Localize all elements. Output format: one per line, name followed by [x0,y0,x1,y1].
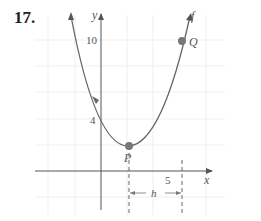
y-tick-10: 10 [86,34,98,46]
y-axis-label: y [91,8,98,22]
point-Q [178,37,186,45]
point-Q-label: Q [189,35,198,49]
point-P [125,142,133,150]
curve-arrow-left-icon [68,12,74,20]
point-P-label: P [123,151,132,165]
y-intercept-label: 4 [90,114,96,126]
parabola-graph: y x f 10 4 5 P Q h [0,0,261,221]
function-label: f [191,9,196,23]
x-tick-5: 5 [165,174,171,186]
x-axis-label: x [203,173,210,187]
interval-h-label: h [151,187,157,199]
